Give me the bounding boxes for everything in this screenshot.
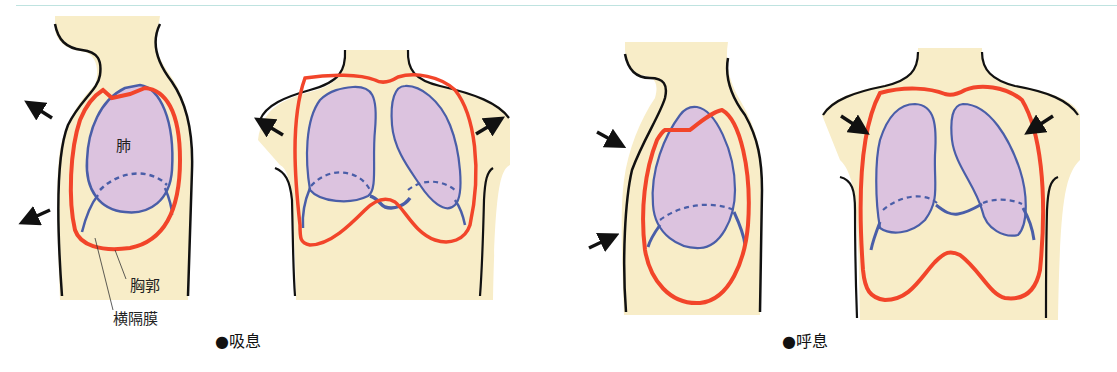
expiration-side-view <box>589 42 762 315</box>
lung-label: 肺 <box>116 139 131 154</box>
arrow-in-lower <box>589 238 610 248</box>
lung-left <box>307 87 376 201</box>
expiration-caption: ●呼息 <box>782 334 828 350</box>
ribcage-label: 胸郭 <box>130 279 160 294</box>
arrow-out-lower <box>28 210 50 220</box>
respiration-diagram <box>0 0 1117 372</box>
inspiration-side-view <box>28 16 192 310</box>
expiration-front-view <box>822 48 1080 320</box>
diaphragm-label: 横隔膜 <box>113 312 158 327</box>
inspiration-caption: ●吸息 <box>215 334 261 350</box>
arrow-out-upper <box>33 106 52 118</box>
arrow-in-upper <box>597 132 617 143</box>
inspiration-front-view <box>258 50 510 300</box>
